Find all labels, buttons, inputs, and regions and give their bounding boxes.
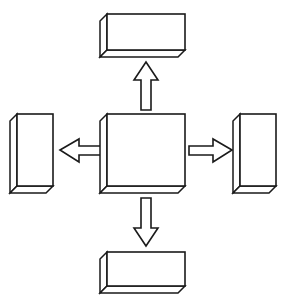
- right-node-front-face: [240, 114, 276, 186]
- center-node-left-bevel: [100, 114, 107, 193]
- arrow-right[interactable]: [189, 139, 232, 162]
- center-node-front-face: [107, 114, 185, 186]
- arrow-left[interactable]: [60, 139, 103, 162]
- block-diagram: [0, 0, 292, 300]
- left-node-front-face: [17, 114, 53, 186]
- top-node[interactable]: [100, 14, 185, 57]
- arrow-left-shape: [60, 139, 103, 162]
- bottom-node-front-face: [107, 252, 185, 286]
- left-node[interactable]: [10, 114, 53, 193]
- bottom-node-bottom-bevel: [100, 286, 185, 293]
- left-node-left-bevel: [10, 114, 17, 193]
- top-node-bottom-bevel: [100, 50, 185, 57]
- left-node-bottom-bevel: [10, 186, 53, 193]
- arrow-up-shape: [134, 62, 158, 110]
- arrow-up[interactable]: [134, 62, 158, 110]
- arrow-down-shape: [134, 198, 158, 246]
- top-node-front-face: [107, 14, 185, 50]
- arrow-down[interactable]: [134, 198, 158, 246]
- center-node-bottom-bevel: [100, 186, 185, 193]
- center-node[interactable]: [100, 114, 185, 193]
- bottom-node[interactable]: [100, 252, 185, 293]
- arrow-right-shape: [189, 139, 232, 162]
- right-node[interactable]: [233, 114, 276, 193]
- right-node-left-bevel: [233, 114, 240, 193]
- diagram-canvas: [0, 0, 292, 300]
- right-node-bottom-bevel: [233, 186, 276, 193]
